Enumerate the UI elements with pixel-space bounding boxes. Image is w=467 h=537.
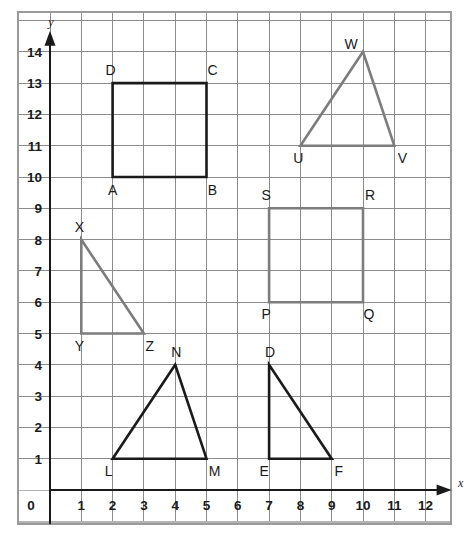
y-tick-label: 7 [34,264,42,279]
vertex-label-d: D [265,344,275,360]
y-tick-label: 3 [34,389,42,404]
y-tick-label: 12 [27,107,42,122]
vertex-label-q: Q [364,306,375,322]
vertex-label-x: X [75,219,85,235]
vertex-label-y: Y [75,338,85,354]
square-pqrs [269,208,363,302]
vertex-label-b: B [208,182,217,198]
vertex-label-n: N [171,344,181,360]
x-tick-label: 11 [387,498,402,513]
x-tick-label: 12 [418,498,433,513]
vertex-label-p: P [261,306,270,322]
vertex-label-u: U [293,150,303,166]
y-tick-label: 14 [27,45,43,60]
vertex-label-m: M [209,463,221,479]
vertex-label-d: D [106,62,116,78]
x-tick-label: 0 [27,498,35,513]
triangle-lmn [113,365,207,459]
x-tick-label: 10 [355,498,370,513]
y-tick-label: 8 [34,233,42,248]
vertex-label-s: S [261,187,270,203]
x-axis-name: x [457,476,464,490]
x-tick-label: 2 [109,498,117,513]
y-axis-name: y [47,15,54,29]
x-tick-label: 1 [78,498,86,513]
vertex-label-z: Z [146,338,155,354]
y-tick-label: 5 [34,327,42,342]
tick-labels: 01234567891011121234567891011121314 [27,45,433,513]
x-tick-label: 7 [265,498,273,513]
x-tick-label: 3 [140,498,148,513]
x-tick-label: 4 [171,498,179,513]
vertex-label-f: F [334,463,343,479]
grid-lines [18,12,451,524]
x-axis-arrow-icon [437,485,452,496]
x-tick-label: 6 [234,498,242,513]
coordinate-grid-figure: 01234567891011121234567891011121314 ABCD… [0,0,467,537]
vertex-label-l: L [105,463,113,479]
x-tick-label: 5 [203,498,211,513]
x-tick-label: 8 [297,498,305,513]
y-axis-arrow-icon [45,31,56,46]
x-tick-label: 9 [328,498,336,513]
axis-name-labels: yx [47,15,464,490]
triangle-uvw [300,52,394,146]
vertex-label-v: V [398,150,408,166]
y-tick-label: 1 [34,452,42,467]
y-tick-label: 4 [34,358,42,373]
vertex-label-r: R [365,187,375,203]
figure-border [18,12,451,524]
vertex-label-c: C [207,62,217,78]
vertex-label-w: W [344,36,358,52]
vertex-label-a: A [108,182,118,198]
y-tick-label: 6 [34,295,42,310]
vertex-labels: ABCDUVWXYZPQRSLMNEFD [75,36,408,479]
y-tick-label: 10 [27,170,42,185]
figure-frame [18,12,451,524]
y-tick-label: 11 [28,139,43,154]
y-tick-label: 2 [34,420,42,435]
vertex-label-e: E [259,463,268,479]
square-abcd [113,83,207,177]
plot-canvas: 01234567891011121234567891011121314 ABCD… [0,0,467,537]
y-tick-label: 9 [34,201,42,216]
y-tick-label: 13 [27,76,43,91]
